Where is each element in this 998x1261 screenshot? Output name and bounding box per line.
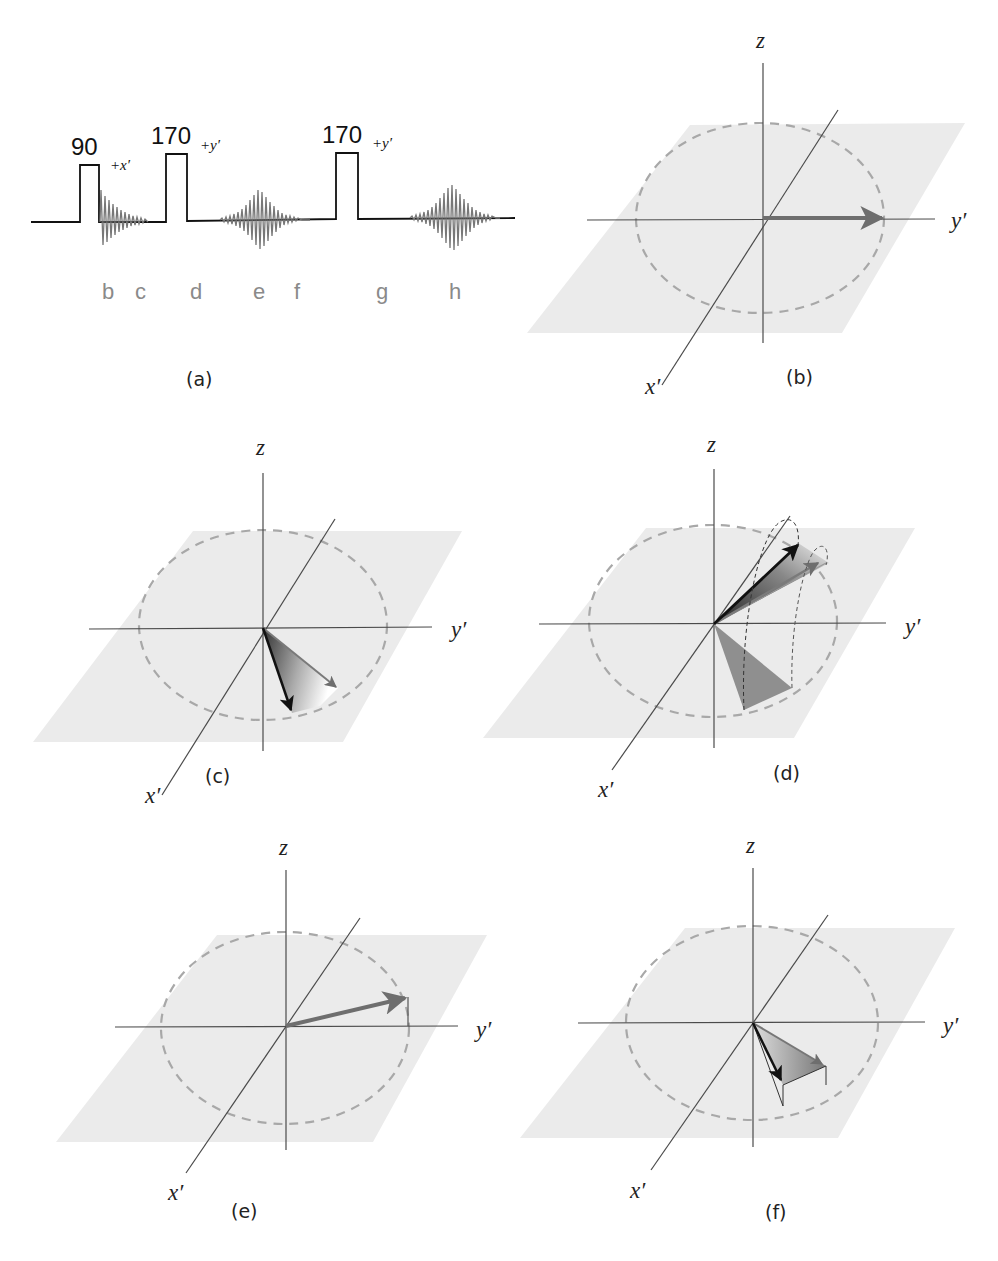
panel-d: z y′ x′ (d): [483, 432, 921, 802]
pulse-1-phase: +x′: [110, 157, 131, 173]
panel-label-d: (d): [773, 762, 800, 784]
x-axis-label: x′: [167, 1180, 184, 1205]
z-axis-label: z: [278, 835, 288, 860]
segment-label-c: c: [135, 279, 146, 304]
y-axis-label: y′: [474, 1017, 492, 1042]
pulse-sequence-diagram: 90 +x′ 170 +y′ 170 +y′ b c d e f g h (a): [31, 121, 515, 390]
x-axis-label: x′: [629, 1178, 646, 1203]
pulse-1-angle: 90: [71, 133, 98, 160]
segment-label-d: d: [190, 279, 202, 304]
transverse-plane: [483, 528, 915, 738]
panel-label-a: (a): [186, 368, 212, 390]
segment-label-b: b: [102, 279, 114, 304]
panel-c: z y′ x′ (c): [33, 435, 467, 808]
y-axis-label: y′: [449, 617, 467, 642]
y-axis-label: y′: [903, 614, 921, 639]
y-axis-label: y′: [949, 208, 967, 233]
echo-signal-2: [410, 185, 500, 250]
panel-label-e: (e): [231, 1200, 258, 1222]
panel-label-f: (f): [765, 1201, 787, 1223]
y-axis-label: y′: [941, 1013, 959, 1038]
panel-e: z y′ x′ (e): [56, 835, 492, 1222]
fid-signal: [100, 190, 148, 245]
segment-label-h: h: [449, 279, 461, 304]
transverse-plane: [520, 928, 955, 1138]
panel-f: z y′ x′ (f): [520, 833, 959, 1223]
panel-label-c: (c): [205, 765, 230, 787]
segment-label-g: g: [376, 279, 388, 304]
segment-label-e: e: [253, 279, 265, 304]
x-axis-label: x′: [644, 374, 661, 399]
panel-label-b: (b): [786, 366, 813, 388]
x-axis-label: x′: [597, 777, 614, 802]
pulse-2-angle: 170: [151, 122, 191, 149]
z-axis-label: z: [745, 833, 755, 858]
pulse-3-phase: +y′: [372, 135, 393, 151]
transverse-plane: [33, 531, 462, 742]
transverse-plane: [56, 935, 487, 1142]
pulse-2-phase: +y′: [200, 137, 221, 153]
transverse-plane: [527, 123, 965, 333]
z-axis-label: z: [706, 432, 716, 457]
echo-signal-1: [220, 190, 310, 249]
z-axis-label: z: [255, 435, 265, 460]
panel-b: z y′ x′ (b): [527, 28, 967, 399]
spin-echo-figure: 90 +x′ 170 +y′ 170 +y′ b c d e f g h (a)…: [0, 0, 998, 1261]
x-axis-label: x′: [144, 783, 161, 808]
pulse-3-angle: 170: [322, 121, 362, 148]
segment-label-f: f: [294, 279, 301, 304]
z-axis-label: z: [755, 28, 765, 53]
